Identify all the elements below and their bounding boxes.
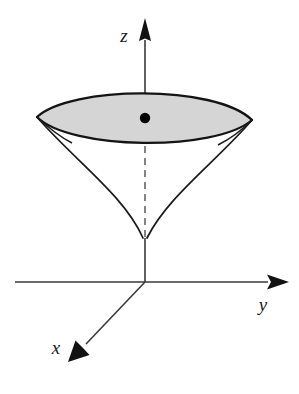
math-figure: z y x [0, 0, 299, 394]
x-axis [68, 282, 145, 362]
y-axis-label: y [257, 294, 268, 315]
y-axis-arrowhead-icon [267, 275, 289, 290]
z-axis [139, 18, 151, 282]
center-point-marker [140, 113, 150, 123]
z-axis-arrowhead-icon [139, 18, 151, 41]
cone-diagram-canvas: z y x [0, 0, 299, 394]
z-axis-label: z [119, 25, 128, 46]
y-axis [15, 275, 289, 290]
x-axis-line [86, 282, 145, 344]
x-axis-label: x [51, 337, 61, 358]
